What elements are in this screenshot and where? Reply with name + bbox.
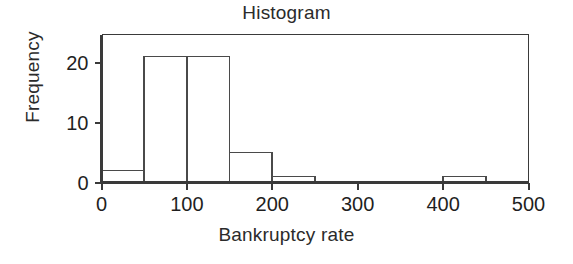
x-tick-labels: 0100200300400500	[96, 193, 545, 215]
y-tick-labels: 01020	[66, 52, 88, 194]
x-tick-label: 200	[256, 193, 289, 215]
x-tick-label: 100	[170, 193, 203, 215]
histogram-bar	[144, 57, 187, 183]
plot-area: 0100200300400500 01020	[0, 0, 573, 264]
histogram-bar	[187, 57, 230, 183]
y-tick-label: 20	[66, 52, 88, 74]
x-tick-label: 300	[341, 193, 374, 215]
histogram-bar	[230, 153, 273, 183]
histogram-figure: Histogram Frequency Bankruptcy rate 0100…	[0, 0, 573, 264]
x-tick-label: 500	[512, 193, 545, 215]
x-tick-label: 0	[96, 193, 107, 215]
histogram-bar	[102, 171, 145, 183]
y-tick-label: 0	[77, 172, 88, 194]
bars-group	[102, 57, 486, 183]
y-tick-label: 10	[66, 112, 88, 134]
x-tick-label: 400	[426, 193, 459, 215]
